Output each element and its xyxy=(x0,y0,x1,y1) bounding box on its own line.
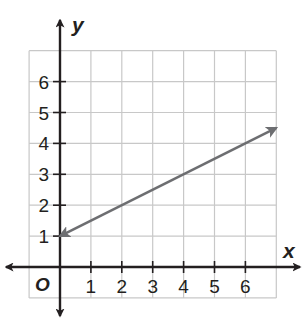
x-tick-label: 3 xyxy=(147,276,158,297)
y-tick-label: 6 xyxy=(38,72,49,93)
x-tick-label: 4 xyxy=(178,276,189,297)
tick-labels: 123456123456 xyxy=(38,72,250,297)
y-tick-label: 5 xyxy=(38,103,49,124)
x-tick-label: 2 xyxy=(117,276,128,297)
grid xyxy=(29,51,276,298)
data-line xyxy=(60,128,276,236)
y-tick-label: 4 xyxy=(38,133,49,154)
x-tick-label: 6 xyxy=(240,276,251,297)
x-tick-label: 1 xyxy=(86,276,97,297)
x-tick-label: 5 xyxy=(209,276,220,297)
x-axis-label: x xyxy=(282,239,296,262)
y-tick-label: 1 xyxy=(38,226,49,247)
series-line xyxy=(60,128,276,236)
y-tick-label: 3 xyxy=(38,164,49,185)
origin-label: O xyxy=(35,274,50,295)
y-axis-label: y xyxy=(71,13,85,36)
y-tick-label: 2 xyxy=(38,195,49,216)
coordinate-plane: 123456123456 x y O xyxy=(0,0,306,320)
